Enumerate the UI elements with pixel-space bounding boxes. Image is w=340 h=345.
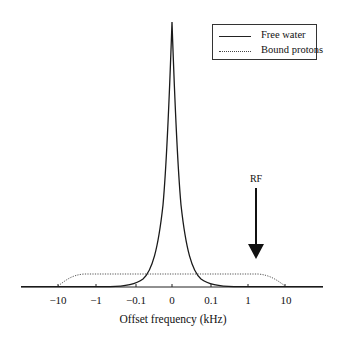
legend-label: Bound protons: [261, 44, 323, 55]
rf-arrow-icon: [248, 188, 264, 259]
free-water-curve: [21, 22, 323, 287]
x-tick-label: −10: [49, 294, 66, 306]
x-axis-title: Offset frequency (kHz): [119, 313, 226, 325]
x-tick-label: 10: [281, 294, 292, 306]
x-tick-label: −1: [90, 294, 102, 306]
chart-legend: Free water Bound protons: [212, 24, 317, 60]
dotted-line-swatch-icon: [219, 51, 251, 52]
x-tick-label: 0.1: [204, 294, 218, 306]
legend-label: Free water: [261, 29, 306, 40]
legend-item-bound-protons: Bound protons: [213, 44, 316, 58]
legend-item-free-water: Free water: [213, 29, 316, 43]
rf-annotation-label: RF: [250, 173, 262, 184]
x-tick-label: 0: [169, 294, 175, 306]
x-tick-label: −0.1: [126, 294, 146, 306]
solid-line-swatch-icon: [219, 36, 251, 37]
x-tick-label: 1: [245, 294, 251, 306]
